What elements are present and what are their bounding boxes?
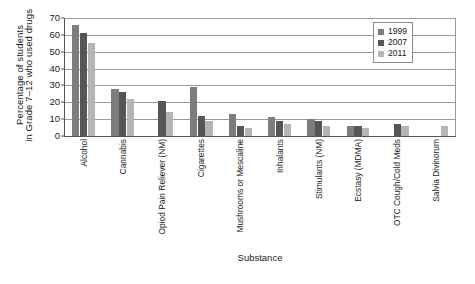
y-tick-label-10: 10 — [49, 114, 60, 124]
x-tick-label: OTC Cough/Cold Meds — [393, 139, 401, 226]
y-tick-label-70: 70 — [49, 13, 60, 23]
bar-group — [111, 18, 134, 136]
bar — [158, 101, 165, 136]
legend-label: 2007 — [388, 38, 407, 47]
bar — [394, 124, 401, 136]
bar-group — [190, 18, 213, 136]
bar — [119, 92, 126, 136]
bar — [166, 112, 173, 136]
bar-group — [347, 18, 370, 136]
legend-item: 2011 — [378, 48, 407, 59]
x-axis-ticks: AlcoholCannabisOpiod Pain Reliever (NM)C… — [64, 139, 456, 239]
bar — [111, 89, 118, 136]
bar-group — [229, 18, 252, 136]
bar — [354, 126, 361, 136]
bar — [441, 126, 448, 136]
legend-swatch-icon — [378, 29, 384, 35]
bar — [362, 128, 369, 136]
x-tick-label: Inhalants — [276, 139, 284, 173]
y-tick-label-20: 20 — [49, 98, 60, 108]
legend-item: 2007 — [378, 37, 407, 48]
legend-item: 1999 — [378, 26, 407, 37]
legend: 199920072011 — [373, 22, 413, 63]
bar — [80, 33, 87, 136]
bar — [268, 117, 275, 136]
x-tick-label: Cigarettes — [197, 139, 205, 177]
bar — [72, 25, 79, 136]
y-tick-label-40: 40 — [49, 64, 60, 74]
bar — [323, 126, 330, 136]
bar — [284, 124, 291, 136]
bar — [237, 126, 244, 136]
bar-chart: Percentage of students in Grade 7–12 who… — [0, 0, 475, 284]
x-tick-label: Opiod Pain Reliever (NM) — [158, 139, 166, 234]
bar-group — [268, 18, 291, 136]
legend-swatch-icon — [378, 40, 384, 46]
bar — [229, 114, 236, 136]
y-tick-label-0: 0 — [55, 131, 60, 141]
x-tick-label: Ecstasy (MDMA) — [354, 139, 362, 202]
x-tick-label: Cannabis — [119, 139, 127, 174]
bar-group — [72, 18, 95, 136]
bar — [198, 116, 205, 136]
bar — [127, 99, 134, 136]
y-tick-label-60: 60 — [49, 30, 60, 40]
bar-group — [425, 18, 448, 136]
bar — [245, 128, 252, 136]
x-tick-label: Alcohol — [80, 139, 88, 166]
legend-label: 1999 — [388, 27, 407, 36]
bar — [190, 87, 197, 136]
bar — [205, 121, 212, 136]
x-tick-label: Mushrooms or Mescaline — [236, 139, 244, 233]
bar — [276, 121, 283, 136]
y-axis-title-line-2: in Grade 7–12 who used drugs — [24, 9, 34, 142]
x-axis-title: Substance — [64, 252, 456, 263]
x-tick-label: Salvia Divinorum — [432, 139, 440, 202]
bar-group — [151, 18, 174, 136]
bar-group — [307, 18, 330, 136]
bar — [315, 121, 322, 136]
bar — [88, 43, 95, 136]
legend-swatch-icon — [378, 51, 384, 57]
y-tick-label-50: 50 — [49, 47, 60, 57]
gridline-0 — [64, 136, 456, 137]
bar — [401, 126, 408, 136]
x-tick-label: Stimulants (NM) — [315, 139, 323, 199]
bar — [307, 119, 314, 136]
legend-label: 2011 — [388, 49, 406, 58]
y-tick-label-30: 30 — [49, 81, 60, 91]
bar — [347, 126, 354, 136]
y-axis-ticks: 010203040506070 — [40, 18, 64, 136]
